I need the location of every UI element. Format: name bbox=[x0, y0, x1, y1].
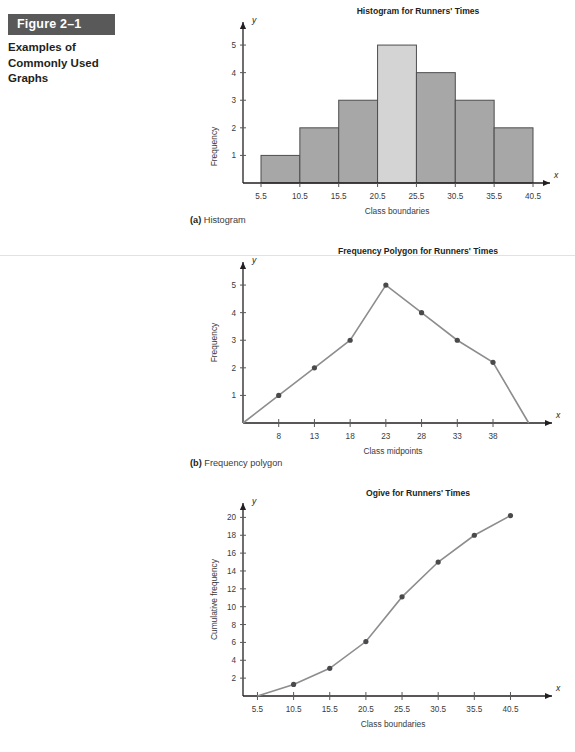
ogive-y-axis-letter: y bbox=[251, 496, 257, 506]
polygon-data-point bbox=[348, 338, 353, 343]
ogive-data-point bbox=[327, 666, 332, 671]
histogram-x-axis-arrowhead bbox=[543, 180, 550, 186]
ogive-data-point bbox=[436, 559, 441, 564]
polygon-data-point bbox=[455, 338, 460, 343]
histogram-y-axis-arrowhead bbox=[240, 22, 246, 29]
caption-b: (b) Frequency polygon bbox=[190, 458, 282, 468]
histogram-y-tick-label: 5 bbox=[231, 41, 236, 50]
histogram-bar bbox=[416, 73, 455, 183]
ogive-x-tick-label: 40.5 bbox=[503, 705, 519, 714]
histogram-x-tick-label: 10.5 bbox=[292, 192, 308, 201]
polygon-x-axis-letter: x bbox=[555, 410, 561, 420]
polygon-x-tick-label: 18 bbox=[346, 432, 356, 441]
histogram-x-axis-letter: x bbox=[553, 170, 559, 180]
polygon-series-line bbox=[243, 285, 529, 423]
polygon-data-point bbox=[312, 365, 317, 370]
histogram-bar bbox=[339, 100, 378, 183]
ogive-y-axis-arrowhead bbox=[240, 503, 246, 510]
ogive-svg: Ogive for Runners' Timesyx24681012141618… bbox=[190, 483, 575, 752]
polygon-x-tick-label: 33 bbox=[453, 432, 463, 441]
histogram-svg: Histogram for Runners' Timesyx123455.510… bbox=[190, 0, 575, 238]
polygon-data-point bbox=[276, 393, 281, 398]
histogram-x-tick-label: 5.5 bbox=[255, 192, 267, 201]
ogive-x-tick-label: 20.5 bbox=[358, 705, 374, 714]
figure-number-banner: Figure 2–1 bbox=[8, 14, 115, 35]
caption-b-marker: (b) bbox=[190, 458, 202, 468]
chart-histogram: Histogram for Runners' Timesyx123455.510… bbox=[190, 0, 575, 238]
ogive-x-tick-label: 25.5 bbox=[394, 705, 410, 714]
polygon-x-tick-label: 28 bbox=[417, 432, 427, 441]
ogive-y-tick-label: 2 bbox=[231, 674, 236, 683]
histogram-x-tick-label: 15.5 bbox=[331, 192, 347, 201]
ogive-series-line bbox=[257, 516, 510, 696]
histogram-title: Histogram for Runners' Times bbox=[357, 6, 480, 16]
histogram-x-tick-label: 25.5 bbox=[408, 192, 424, 201]
ogive-y-axis-label: Cumulative frequency bbox=[209, 558, 219, 640]
ogive-x-axis-arrowhead bbox=[545, 693, 552, 699]
ogive-x-tick-label: 30.5 bbox=[430, 705, 446, 714]
chart-frequency-polygon: Frequency Polygon for Runners' Timesyx12… bbox=[190, 240, 575, 478]
ogive-x-tick-label: 15.5 bbox=[322, 705, 338, 714]
histogram-bar bbox=[378, 45, 417, 183]
polygon-x-tick-label: 38 bbox=[488, 432, 498, 441]
histogram-x-axis-label: Class boundaries bbox=[365, 206, 430, 216]
ogive-y-tick-label: 8 bbox=[231, 621, 236, 630]
histogram-y-tick-label: 4 bbox=[231, 69, 236, 78]
ogive-data-point bbox=[472, 533, 477, 538]
polygon-y-tick-label: 4 bbox=[231, 309, 236, 318]
polygon-data-point bbox=[383, 282, 388, 287]
histogram-y-tick-label: 2 bbox=[231, 124, 236, 133]
polygon-y-tick-label: 2 bbox=[231, 364, 236, 373]
histogram-y-axis-label: Frequency bbox=[209, 126, 219, 166]
ogive-y-tick-label: 4 bbox=[231, 656, 236, 665]
ogive-y-tick-label: 12 bbox=[227, 585, 237, 594]
ogive-data-point bbox=[399, 594, 404, 599]
chart-ogive: Ogive for Runners' Timesyx24681012141618… bbox=[190, 483, 575, 752]
histogram-y-tick-label: 1 bbox=[231, 151, 236, 160]
polygon-y-axis-letter: y bbox=[251, 255, 257, 265]
polygon-y-tick-label: 1 bbox=[231, 391, 236, 400]
ogive-data-point bbox=[363, 639, 368, 644]
polygon-y-tick-label: 5 bbox=[231, 281, 236, 290]
figure-title: Examples of Commonly Used Graphs bbox=[8, 40, 138, 87]
ogive-y-tick-label: 18 bbox=[227, 531, 237, 540]
ogive-y-tick-label: 6 bbox=[231, 638, 236, 647]
ogive-x-tick-label: 10.5 bbox=[286, 705, 302, 714]
ogive-x-tick-label: 35.5 bbox=[466, 705, 482, 714]
frequency-polygon-svg: Frequency Polygon for Runners' Timesyx12… bbox=[190, 240, 575, 478]
histogram-x-tick-label: 40.5 bbox=[525, 192, 541, 201]
polygon-x-tick-label: 23 bbox=[381, 432, 391, 441]
ogive-x-axis-label: Class boundaries bbox=[361, 719, 426, 729]
histogram-y-axis-letter: y bbox=[251, 15, 257, 25]
polygon-title: Frequency Polygon for Runners' Times bbox=[338, 246, 498, 256]
histogram-x-tick-label: 30.5 bbox=[447, 192, 463, 201]
ogive-x-axis-letter: x bbox=[555, 683, 561, 693]
polygon-x-tick-label: 8 bbox=[276, 432, 281, 441]
ogive-title: Ogive for Runners' Times bbox=[366, 488, 470, 498]
polygon-x-axis-arrowhead bbox=[545, 420, 552, 426]
polygon-y-axis-label: Frequency bbox=[209, 322, 219, 362]
ogive-y-tick-label: 10 bbox=[227, 603, 237, 612]
polygon-data-point bbox=[490, 360, 495, 365]
histogram-x-tick-label: 20.5 bbox=[370, 192, 386, 201]
caption-a-text: Histogram bbox=[204, 215, 246, 225]
polygon-y-axis-arrowhead bbox=[240, 262, 246, 269]
ogive-x-tick-label: 5.5 bbox=[252, 705, 264, 714]
caption-b-text: Frequency polygon bbox=[204, 458, 282, 468]
caption-a-marker: (a) bbox=[190, 215, 201, 225]
ogive-y-tick-label: 14 bbox=[227, 567, 237, 576]
histogram-x-tick-label: 35.5 bbox=[486, 192, 502, 201]
ogive-y-tick-label: 16 bbox=[227, 549, 237, 558]
figure-number-label: Figure 2–1 bbox=[8, 14, 115, 35]
histogram-bar bbox=[494, 128, 533, 183]
polygon-data-point bbox=[419, 310, 424, 315]
ogive-data-point bbox=[291, 682, 296, 687]
caption-a: (a) Histogram bbox=[190, 215, 246, 225]
ogive-data-point bbox=[508, 513, 513, 518]
histogram-bar bbox=[261, 155, 300, 183]
polygon-x-tick-label: 13 bbox=[310, 432, 320, 441]
polygon-y-tick-label: 3 bbox=[231, 336, 236, 345]
ogive-y-tick-label: 20 bbox=[227, 513, 237, 522]
histogram-bar bbox=[455, 100, 494, 183]
histogram-y-tick-label: 3 bbox=[231, 96, 236, 105]
